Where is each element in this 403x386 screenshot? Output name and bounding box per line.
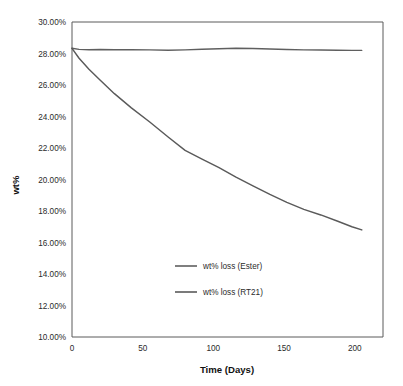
y-tick-label: 22.00% — [38, 144, 66, 153]
y-tick-label: 14.00% — [38, 270, 66, 279]
legend-label: wt% loss (Ester) — [202, 262, 262, 271]
x-axis-title: Time (Days) — [200, 364, 254, 375]
y-tick-label: 10.00% — [38, 333, 66, 342]
legend-label: wt% loss (RT21) — [202, 288, 263, 297]
chart-container: 10.00%12.00%14.00%16.00%18.00%20.00%22.0… — [0, 0, 403, 386]
y-tick-label: 26.00% — [38, 81, 66, 90]
y-tick-label: 30.00% — [38, 18, 66, 27]
y-tick-label: 16.00% — [38, 239, 66, 248]
x-tick-label: 200 — [348, 344, 362, 353]
chart-svg: 10.00%12.00%14.00%16.00%18.00%20.00%22.0… — [0, 0, 403, 386]
line-chart-figure: 10.00%12.00%14.00%16.00%18.00%20.00%22.0… — [0, 0, 403, 386]
y-axis-title: wt% — [10, 175, 21, 196]
y-tick-label: 12.00% — [38, 302, 66, 311]
x-tick-label: 0 — [70, 344, 75, 353]
x-tick-label: 150 — [277, 344, 291, 353]
y-tick-label: 20.00% — [38, 176, 66, 185]
y-tick-label: 28.00% — [38, 50, 66, 59]
y-tick-label: 18.00% — [38, 207, 66, 216]
x-tick-label: 50 — [138, 344, 148, 353]
y-tick-label: 24.00% — [38, 113, 66, 122]
x-tick-label: 100 — [207, 344, 221, 353]
